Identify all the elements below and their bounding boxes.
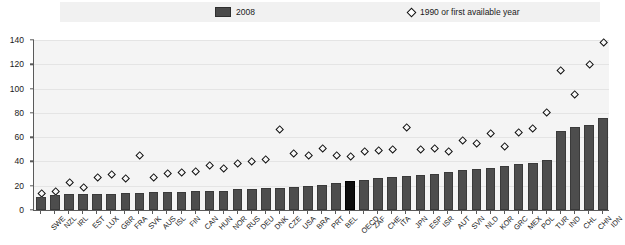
plot-area [33, 40, 609, 210]
x-axis-tick-mark [419, 211, 420, 214]
bar-kor [486, 168, 496, 211]
y-axis-tick-label: 100 [10, 84, 24, 94]
marker-irl [66, 179, 73, 186]
y-axis-tick-label: 0 [19, 205, 24, 215]
x-axis-tick-mark [349, 211, 350, 214]
x-axis-tick-mark [68, 211, 69, 214]
x-axis-tick-mark [152, 211, 153, 214]
marker-lux [94, 174, 101, 181]
marker-rus [234, 160, 241, 167]
marker-aus [150, 174, 157, 181]
x-axis-tick-mark [166, 211, 167, 214]
x-axis-tick-label-lux: LUX [104, 214, 121, 231]
bar-irl [64, 194, 74, 210]
x-axis-tick-label-svk: SVK [146, 214, 163, 231]
marker-ind [557, 67, 564, 74]
x-axis-tick-mark [518, 211, 519, 214]
x-axis-tick-mark [293, 211, 294, 214]
gridline [34, 89, 609, 90]
marker-nor [220, 165, 227, 172]
marker-deu [248, 158, 255, 165]
x-axis-tick-label-idn: IDN [609, 214, 624, 229]
x-axis-tick-label-aut: AUT [455, 214, 472, 231]
bar-dnk [261, 188, 271, 210]
bar-est [78, 194, 88, 210]
x-axis-tick-mark [82, 211, 83, 214]
bar-nzl [50, 195, 60, 210]
gridline [34, 137, 609, 138]
x-axis-tick-mark [223, 211, 224, 214]
x-axis-tick-mark [54, 211, 55, 214]
marker-aut [445, 148, 452, 155]
x-axis-tick-label-nld: NLD [483, 214, 500, 231]
x-axis-tick-mark [181, 211, 182, 214]
legend-label-1990: 1990 or first available year [420, 7, 520, 17]
marker-esp [417, 146, 424, 153]
y-axis-tick-label: 20 [15, 181, 24, 191]
marker-gbr [108, 171, 115, 178]
marker-bra [304, 152, 311, 159]
x-axis-tick-label-jpn: JPN [413, 214, 429, 230]
x-axis-tick-mark [96, 211, 97, 214]
marker-grc [501, 143, 508, 150]
x-axis-tick-mark [209, 211, 210, 214]
bar-hun [205, 191, 215, 210]
x-axis-tick-label-irl: IRL [75, 214, 90, 229]
bar-can [191, 191, 201, 210]
x-axis-tick-mark [377, 211, 378, 214]
x-axis-tick-mark [447, 211, 448, 214]
bar-cze [275, 188, 285, 210]
bar-usa [289, 187, 299, 210]
x-axis-tick-mark [490, 211, 491, 214]
x-axis-tick-label-chl: CHL [582, 214, 599, 231]
bar-isr [430, 174, 440, 210]
x-axis-tick-label-isl: ISL [173, 214, 187, 228]
marker-swe [38, 190, 45, 197]
bar-tur [542, 160, 552, 210]
legend-label-2008: 2008 [236, 7, 255, 17]
bar-svk [135, 193, 145, 210]
bar-fra [121, 193, 131, 210]
bar-bra [303, 186, 313, 210]
x-axis-tick-mark [40, 211, 41, 214]
gridline [34, 161, 609, 162]
gridline [34, 113, 609, 114]
bar-fin [177, 192, 187, 210]
bar-jpn [402, 176, 412, 210]
x-axis-tick-mark [504, 211, 505, 214]
marker-usa [290, 149, 297, 156]
marker-nzl [52, 188, 59, 195]
marker-che [375, 147, 382, 154]
marker-chn [585, 61, 592, 68]
chart-legend: 2008 1990 or first available year [60, 2, 600, 22]
marker-zaf [361, 148, 368, 155]
marker-hun [206, 162, 213, 169]
x-axis-tick-mark [124, 211, 125, 214]
marker-isr [431, 145, 438, 152]
marker-nld [473, 140, 480, 147]
bar-nor [219, 191, 229, 210]
x-axis-tick-mark [476, 211, 477, 214]
x-axis-tick-mark [195, 211, 196, 214]
legend-item-1990: 1990 or first available year [407, 7, 520, 17]
marker-pol [529, 125, 536, 132]
bar-swe [36, 197, 46, 210]
x-axis-tick-mark [363, 211, 364, 214]
y-axis-tick-label: 120 [10, 59, 24, 69]
x-axis-tick-mark [405, 211, 406, 214]
marker-dnk [262, 156, 269, 163]
marker-oecd [347, 153, 354, 160]
bar-nld [472, 169, 482, 210]
y-axis-tick-label: 40 [15, 156, 24, 166]
marker-chl [571, 91, 578, 98]
bar-mex [514, 164, 524, 210]
plot-wrapper: 020406080100120140 SWENZLIRLESTLUXGBRFRA… [0, 30, 618, 245]
bar-pol [528, 163, 538, 210]
bar-chl [570, 127, 580, 210]
x-axis-tick-mark [433, 211, 434, 214]
x-axis-tick-mark [237, 211, 238, 214]
x-axis-tick-mark [251, 211, 252, 214]
marker-ita [389, 146, 396, 153]
x-axis-tick-mark [307, 211, 308, 214]
